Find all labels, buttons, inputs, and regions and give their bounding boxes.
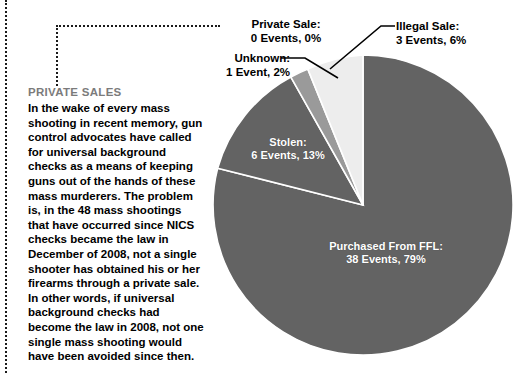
- callout-illegal-sale: Illegal Sale: 3 Events, 6%: [396, 20, 516, 47]
- infographic-page: Private Sale: 0 Events, 0% Illegal Sale:…: [0, 0, 527, 373]
- article-body: In the wake of every mass shooting in re…: [28, 101, 204, 364]
- callout-private-sale-line1: Private Sale:: [251, 18, 320, 30]
- slice-label-ffl-line1: Purchased From FFL:: [329, 240, 443, 252]
- callout-illegal-sale-line2: 3 Events, 6%: [396, 34, 516, 48]
- article-block: PRIVATE SALES In the wake of every mass …: [28, 86, 204, 364]
- slice-label-ffl-line2: 38 Events, 79%: [346, 253, 426, 265]
- callout-unknown: Unknown: 1 Event, 2%: [162, 52, 290, 79]
- slice-label-stolen-line2: 6 Events, 13%: [251, 149, 324, 161]
- callout-illegal-sale-line1: Illegal Sale:: [396, 20, 459, 32]
- callout-unknown-line2: 1 Event, 2%: [162, 66, 290, 80]
- callout-private-sale-line2: 0 Events, 0%: [222, 32, 350, 46]
- article-heading: PRIVATE SALES: [28, 86, 204, 98]
- callout-unknown-line1: Unknown:: [234, 52, 290, 64]
- slice-label-purchased-from-ffl: Purchased From FFL: 38 Events, 79%: [298, 240, 474, 266]
- slice-label-stolen: Stolen: 6 Events, 13%: [232, 136, 344, 162]
- callout-private-sale: Private Sale: 0 Events, 0%: [222, 18, 350, 45]
- slice-label-stolen-line1: Stolen:: [269, 136, 306, 148]
